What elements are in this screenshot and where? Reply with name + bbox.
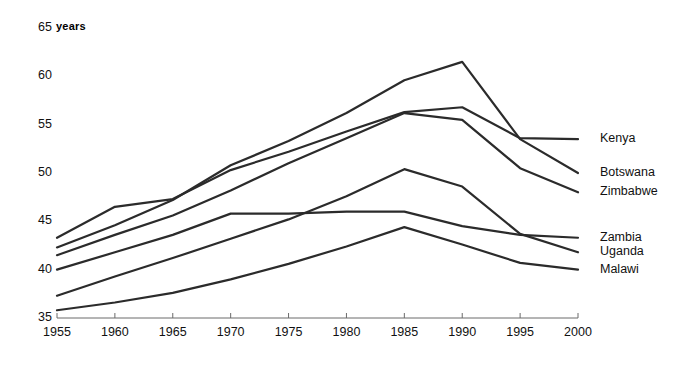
life-expectancy-line-chart: years 35404550556065 1955196019651970197…	[0, 0, 699, 367]
series-label-kenya: Kenya	[600, 131, 635, 145]
series-lines	[57, 62, 578, 310]
series-label-zambia: Zambia	[600, 230, 642, 244]
series-line-zambia	[57, 212, 578, 270]
series-label-malawi: Malawi	[600, 262, 639, 276]
plot-area	[0, 0, 699, 367]
series-line-botswana	[57, 62, 578, 248]
series-label-zimbabwe: Zimbabwe	[600, 184, 658, 198]
axis-lines	[57, 313, 578, 318]
series-line-zimbabwe	[57, 113, 578, 255]
series-line-malawi	[57, 227, 578, 310]
series-label-uganda: Uganda	[600, 244, 644, 258]
series-label-botswana: Botswana	[600, 165, 655, 179]
